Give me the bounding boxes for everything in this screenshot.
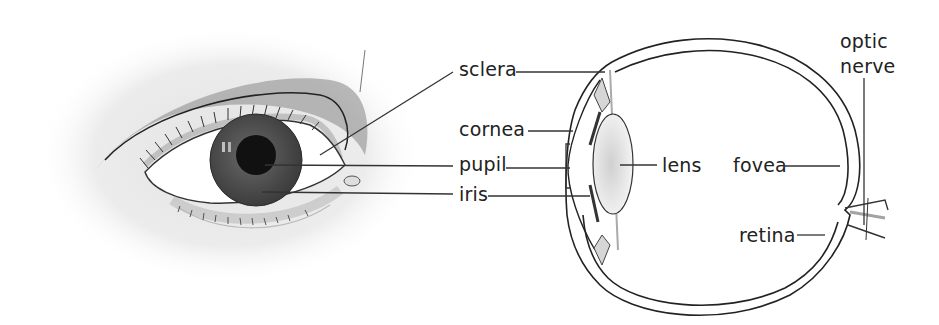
label-lens: lens [662,156,702,175]
external-eye [35,25,425,285]
label-sclera: sclera [459,60,517,79]
label-iris: iris [459,185,488,204]
label-fovea: fovea [733,156,787,175]
label-retina: retina [739,226,796,245]
eye-cross-section [566,39,888,316]
label-optic-line2: nerve [840,57,895,76]
eye-anatomy-diagram: sclera cornea pupil iris lens fovea reti… [0,0,939,325]
label-cornea: cornea [459,120,525,139]
label-optic-line1: optic [840,32,888,51]
label-pupil: pupil [459,155,507,174]
